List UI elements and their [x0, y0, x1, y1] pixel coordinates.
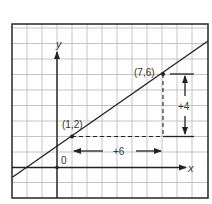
x-axis-label: x	[187, 162, 194, 174]
coordinate-graph: y x 0 (1,2) (7,6) +6 +4	[0, 0, 212, 204]
point-label-7-6: (7,6)	[134, 67, 155, 78]
rise-label: +4	[178, 101, 190, 112]
origin-label: 0	[61, 155, 67, 166]
point-1-2	[70, 135, 74, 139]
point-7-6	[161, 72, 165, 76]
point-label-1-2: (1,2)	[62, 119, 83, 130]
origin-dot	[55, 166, 59, 170]
run-label: +6	[113, 146, 125, 157]
